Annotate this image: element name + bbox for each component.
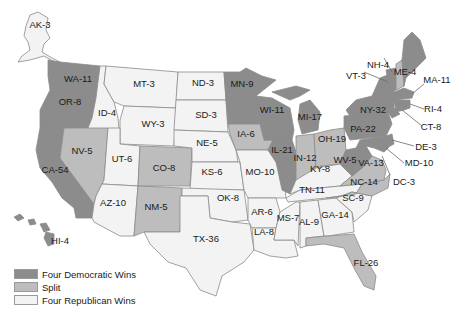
state-ri bbox=[404, 100, 410, 110]
label-ar: AR-6 bbox=[251, 207, 273, 217]
label-co: CO-8 bbox=[153, 163, 176, 173]
label-vt: VT-3 bbox=[346, 71, 366, 81]
label-tn: TN-11 bbox=[299, 185, 325, 195]
legend-item-rep: Four Republican Wins bbox=[14, 294, 136, 306]
label-de: DE-3 bbox=[415, 142, 437, 152]
label-wv: WV-5 bbox=[333, 155, 356, 165]
legend-label-dem: Four Democratic Wins bbox=[42, 269, 136, 280]
leader-ma bbox=[412, 84, 424, 94]
leader-md bbox=[386, 148, 404, 163]
legend-label-split: Split bbox=[42, 282, 60, 293]
label-dc: DC-3 bbox=[393, 177, 415, 187]
state-hi bbox=[14, 214, 54, 246]
state-az bbox=[92, 184, 138, 236]
legend-swatch-dem bbox=[14, 269, 38, 279]
label-ok: OK-8 bbox=[217, 193, 239, 203]
label-ct: CT-8 bbox=[421, 122, 442, 132]
legend-item-dem: Four Democratic Wins bbox=[14, 268, 136, 280]
label-id: ID-4 bbox=[98, 108, 116, 118]
label-az: AZ-10 bbox=[100, 198, 126, 208]
label-wy: WY-3 bbox=[142, 119, 165, 129]
label-oh: OH-19 bbox=[318, 134, 346, 144]
label-ks: KS-6 bbox=[201, 167, 222, 177]
label-ne: NE-5 bbox=[196, 138, 218, 148]
label-nc: NC-14 bbox=[350, 177, 377, 187]
label-mn: MN-9 bbox=[230, 79, 253, 89]
label-ky: KY-8 bbox=[310, 164, 330, 174]
legend: Four Democratic Wins Split Four Republic… bbox=[14, 268, 136, 307]
label-pa: PA-22 bbox=[350, 124, 376, 134]
leader-ri bbox=[410, 104, 424, 109]
label-tx: TX-36 bbox=[193, 234, 219, 244]
label-ca: CA-54 bbox=[42, 165, 69, 175]
label-ia: IA-6 bbox=[237, 129, 254, 139]
label-mt: MT-3 bbox=[133, 79, 155, 89]
label-or: OR-8 bbox=[59, 97, 82, 107]
label-ri: RI-4 bbox=[424, 104, 442, 114]
label-wa: WA-11 bbox=[64, 74, 92, 84]
leader-de bbox=[392, 140, 414, 146]
label-mo: MO-10 bbox=[245, 167, 274, 177]
label-fl: FL-26 bbox=[354, 258, 379, 268]
label-va: VA-13 bbox=[358, 158, 384, 168]
legend-item-split: Split bbox=[14, 281, 136, 293]
label-in: IN-12 bbox=[293, 153, 316, 163]
label-ak: AK-3 bbox=[29, 20, 50, 30]
label-hi: HI-4 bbox=[51, 236, 69, 246]
label-nv: NV-5 bbox=[71, 146, 92, 156]
legend-label-rep: Four Republican Wins bbox=[42, 295, 135, 306]
label-ga: GA-14 bbox=[321, 210, 348, 220]
label-mi: MI-17 bbox=[298, 112, 322, 122]
label-il: IL-21 bbox=[271, 145, 293, 155]
label-me: ME-4 bbox=[394, 67, 417, 77]
label-nh: NH-4 bbox=[367, 60, 389, 70]
label-ma: MA-11 bbox=[423, 75, 450, 85]
label-ms: MS-7 bbox=[277, 213, 300, 223]
legend-swatch-split bbox=[14, 282, 38, 292]
label-nm: NM-5 bbox=[144, 202, 167, 212]
label-wi: WI-11 bbox=[260, 105, 285, 115]
label-ny: NY-32 bbox=[360, 105, 386, 115]
label-ut: UT-6 bbox=[112, 154, 133, 164]
leader-ct bbox=[402, 110, 422, 126]
label-sd: SD-3 bbox=[195, 110, 217, 120]
label-al: AL-9 bbox=[299, 217, 319, 227]
label-nd: ND-3 bbox=[192, 78, 214, 88]
label-la: LA-8 bbox=[254, 227, 274, 237]
label-sc: SC-9 bbox=[342, 193, 364, 203]
label-md: MD-10 bbox=[405, 158, 434, 168]
legend-swatch-rep bbox=[14, 295, 38, 305]
